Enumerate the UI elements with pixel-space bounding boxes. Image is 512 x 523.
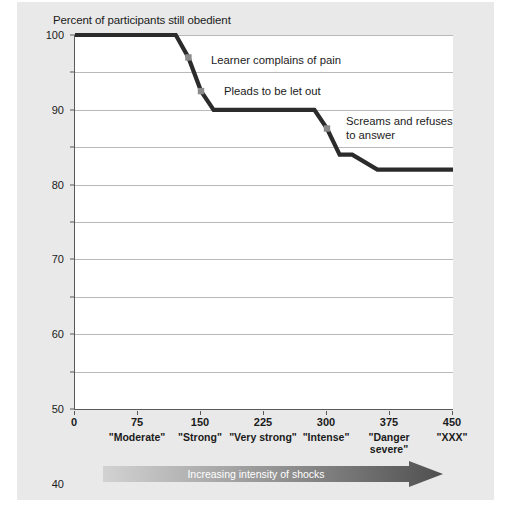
x-tick-label: 225 [254, 416, 272, 428]
annotation-pleads-to-be-let-out: Pleads to be let out [224, 85, 321, 99]
increasing-intensity-arrow: Increasing intensity of shocks [103, 461, 443, 487]
x-axis: 075"Moderate"150"Strong"225"Very strong"… [74, 411, 452, 467]
x-tick-label: 300 [317, 416, 335, 428]
y-tick-label: 70 [52, 253, 64, 265]
chart-title: Percent of participants still obedient [53, 14, 231, 26]
x-tick-mark [200, 411, 201, 415]
x-tick-mark [263, 411, 264, 415]
x-tick-label: 150 [191, 416, 209, 428]
annotation-screams-and-refuses: Screams and refuses to answer [346, 115, 453, 142]
y-tick-label: 40 [52, 477, 64, 489]
arrow-label: Increasing intensity of shocks [103, 461, 409, 487]
x-tick-mark [137, 411, 138, 415]
y-tick-label: 100 [46, 29, 64, 41]
y-tick-label: 50 [52, 403, 64, 415]
x-tick-mark [452, 411, 453, 415]
annotation-learner-complains: Learner complains of pain [211, 54, 341, 68]
x-tick-label: 0 [71, 416, 77, 428]
annotation-marker [185, 54, 191, 60]
x-tick-mark [74, 411, 75, 415]
x-tick-label: 450 [443, 416, 461, 428]
x-tick-label: 75 [131, 416, 143, 428]
y-tick-label: 80 [52, 178, 64, 190]
x-tick-mark [389, 411, 390, 415]
y-tick-label: 60 [52, 328, 64, 340]
x-tick-label: 375 [380, 416, 398, 428]
chart-figure-panel: Percent of participants still obedient 0… [17, 2, 494, 500]
annotation-marker [324, 125, 330, 131]
x-tick-category: "XXX" [414, 431, 490, 443]
y-tick-label: 90 [52, 103, 64, 115]
x-tick-mark [326, 411, 327, 415]
annotation-marker [198, 88, 204, 94]
